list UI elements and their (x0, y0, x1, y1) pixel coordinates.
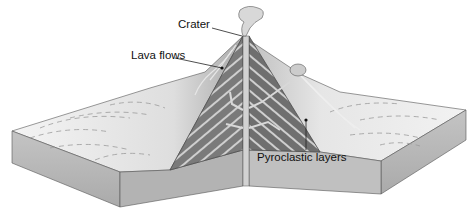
crater-leader-line (212, 28, 242, 36)
parasitic-vent-plume (290, 64, 306, 76)
lava-flows-label: Lava flows (131, 50, 185, 62)
crater-label: Crater (178, 19, 210, 31)
eruption-plume (239, 6, 264, 36)
pyroclastic-layers-label: Pyroclastic layers (257, 152, 346, 164)
volcano-block-illustration (0, 0, 474, 216)
central-vent (243, 36, 249, 186)
